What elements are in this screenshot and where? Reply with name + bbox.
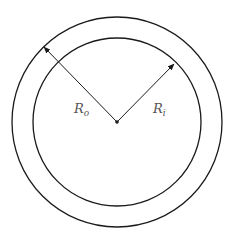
inner-radius-label: Ri <box>152 101 166 118</box>
center-point <box>115 120 119 124</box>
annulus-diagram: Ro Ri <box>0 0 231 242</box>
outer-radius-label: Ro <box>73 101 90 118</box>
